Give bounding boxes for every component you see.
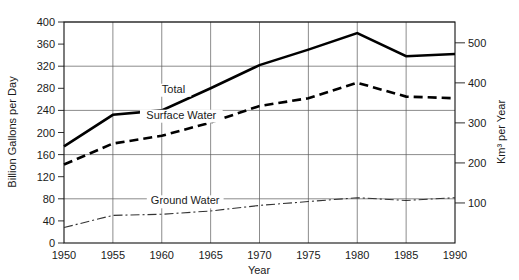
y-tick-label-left: 0 (49, 237, 55, 249)
x-axis-tick-labels: 195019551960196519701975198019851990 (52, 249, 467, 261)
y-tick-label-left: 160 (37, 149, 55, 161)
series-label-total: Total (162, 83, 185, 95)
y-tick-label-right: 500 (468, 37, 486, 49)
x-tick-label: 1985 (394, 249, 418, 261)
y-tick-label-left: 360 (37, 38, 55, 50)
y-tick-label-left: 200 (37, 127, 55, 139)
y-axis-title-right: Km³ per Year (495, 100, 507, 165)
y-tick-label-left: 280 (37, 82, 55, 94)
water-usage-line-chart: 04080120160200240280320360400 1002003004… (0, 0, 519, 280)
y-tick-label-left: 320 (37, 60, 55, 72)
series-label-ground-water: Ground Water (151, 194, 220, 206)
x-tick-label: 1970 (247, 249, 271, 261)
x-tick-label: 1990 (443, 249, 467, 261)
x-tick-label: 1975 (296, 249, 320, 261)
x-tick-label: 1960 (150, 249, 174, 261)
x-tick-label: 1950 (52, 249, 76, 261)
x-tick-label: 1965 (198, 249, 222, 261)
x-tick-label: 1980 (345, 249, 369, 261)
y-axis-title-left: Billion Gallons per Day (6, 76, 18, 188)
y-tick-label-left: 240 (37, 104, 55, 116)
y-tick-label-left: 120 (37, 171, 55, 183)
y-tick-label-right: 200 (468, 157, 486, 169)
y-tick-label-right: 400 (468, 77, 486, 89)
y-tick-label-right: 300 (468, 117, 486, 129)
y-tick-label-right: 100 (468, 197, 486, 209)
y-tick-label-left: 40 (43, 215, 55, 227)
x-axis-title: Year (248, 264, 271, 276)
x-tick-label: 1955 (101, 249, 125, 261)
chart-container: 04080120160200240280320360400 1002003004… (0, 0, 519, 280)
y-tick-label-left: 80 (43, 193, 55, 205)
series-label-surface-water: Surface Water (146, 109, 216, 121)
y-tick-label-left: 400 (37, 16, 55, 28)
